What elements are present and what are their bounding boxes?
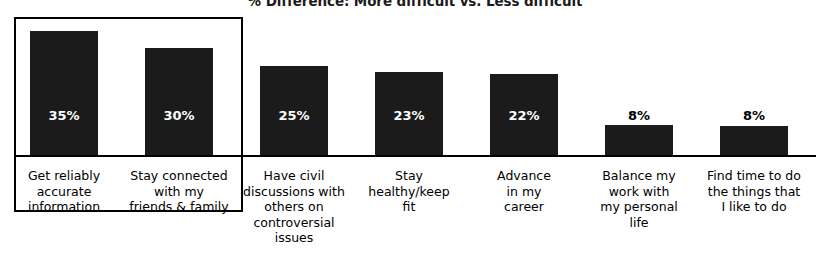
category-label-line: the things that [699,184,809,200]
category-label-line: Have civil [239,168,349,184]
category-label-line: life [584,215,694,231]
bar-group-stay-connected-with-friends-family: 30% Stay connected with my friends & fam… [122,0,236,279]
bar-group-have-civil-discussions: 25% Have civil discussions with others o… [237,0,351,279]
category-label-line: my personal [584,199,694,215]
category-label-line: in my [469,184,579,200]
category-label-line: with my [124,184,234,200]
category-label-line: work with [584,184,694,200]
category-label: Stay healthy/keep fit [354,168,464,215]
category-label-line: career [469,199,579,215]
bar-group-stay-healthy-keep-fit: 23% Stay healthy/keep fit [352,0,466,279]
bar-group-find-time-for-things-i-like: 8% Find time to do the things that I lik… [697,0,811,279]
bar-value-label: 8% [582,108,696,123]
category-label-line: discussions with [239,184,349,200]
category-label-line: information [9,199,119,215]
category-label-line: friends & family [124,199,234,215]
bar-value-label: 22% [467,108,581,123]
bars-layer: 35% Get reliably accurate information 30… [0,0,830,279]
category-label-line: fit [354,199,464,215]
category-label-line: healthy/keep [354,184,464,200]
category-label: Get reliably accurate information [9,168,119,215]
category-label-line: Stay connected [124,168,234,184]
bar-value-label: 30% [122,108,236,123]
chart-screenshot: % Difference: More difficult vs. Less di… [0,0,830,279]
bar-value-label: 25% [237,108,351,123]
category-label: Advance in my career [469,168,579,215]
bar-group-advance-in-my-career: 22% Advance in my career [467,0,581,279]
category-label: Balance my work with my personal life [584,168,694,230]
bar-rect [605,125,673,155]
category-label-line: issues [239,230,349,246]
category-label-line: I like to do [699,199,809,215]
category-label-line: Stay [354,168,464,184]
category-label-line: accurate [9,184,119,200]
category-label: Stay connected with my friends & family [124,168,234,215]
category-label-line: Find time to do [699,168,809,184]
bar-rect [145,48,213,155]
category-label: Have civil discussions with others on co… [239,168,349,246]
bar-group-balance-work-personal-life: 8% Balance my work with my personal life [582,0,696,279]
category-label-line: Balance my [584,168,694,184]
category-label-line: controversial [239,215,349,231]
bar-value-label: 35% [7,108,121,123]
bar-value-label: 23% [352,108,466,123]
category-label-line: others on [239,199,349,215]
bar-rect [720,126,788,155]
category-label: Find time to do the things that I like t… [699,168,809,215]
plot-area: 35% Get reliably accurate information 30… [0,0,830,279]
bar-rect [30,31,98,155]
bar-group-get-reliably-accurate-information: 35% Get reliably accurate information [7,0,121,279]
bar-value-label: 8% [697,108,811,123]
category-label-line: Advance [469,168,579,184]
category-label-line: Get reliably [9,168,119,184]
